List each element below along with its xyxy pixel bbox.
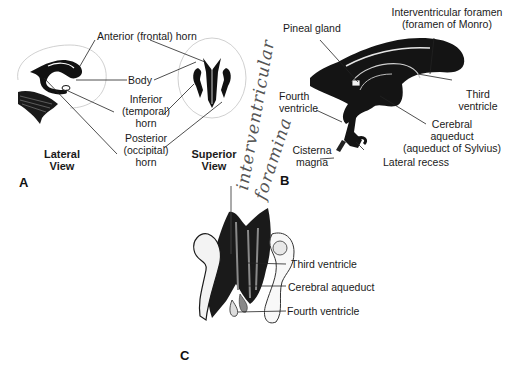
label-fourth-b-line1: Fourth bbox=[279, 90, 318, 102]
label-third-b-line2: ventricle bbox=[450, 100, 506, 112]
label-inferior-line3: horn bbox=[116, 117, 176, 129]
label-aqueduct-b-line2: aqueduct bbox=[400, 130, 504, 142]
panel-letter-a: A bbox=[19, 175, 28, 190]
label-inferior-line1: Inferior bbox=[116, 93, 176, 105]
label-superior-view: Superior View bbox=[186, 148, 242, 172]
label-fourth-ventricle-c: Fourth ventricle bbox=[287, 305, 359, 317]
label-posterior-line3: horn bbox=[116, 156, 176, 168]
label-cisterna-line1: Cisterna bbox=[288, 144, 336, 156]
label-aqueduct-b-line3: (aqueduct of Sylvius) bbox=[400, 142, 504, 154]
label-lateral-view: Lateral View bbox=[34, 148, 90, 172]
label-cerebral-aqueduct-c: Cerebral aqueduct bbox=[288, 281, 374, 293]
label-third-ventricle-b: Third ventricle bbox=[450, 88, 506, 112]
label-superior-line1: Superior bbox=[186, 148, 242, 160]
label-body: Body bbox=[128, 74, 152, 86]
label-posterior-line1: Posterior bbox=[116, 132, 176, 144]
label-superior-line2: View bbox=[186, 160, 242, 172]
label-cisterna-magna: Cisterna magna bbox=[288, 144, 336, 168]
frontal-cast-illustration bbox=[194, 208, 294, 323]
label-cisterna-line2: magna bbox=[288, 156, 336, 168]
label-cerebral-aqueduct-b: Cerebral aqueduct (aqueduct of Sylvius) bbox=[400, 118, 504, 154]
label-lateral-recess: Lateral recess bbox=[383, 156, 449, 168]
label-inferior-horn: Inferior (temporal) horn bbox=[116, 93, 176, 129]
label-iv-foramen-line1: Interventricular foramen bbox=[384, 6, 510, 18]
label-interventricular-foramen: Interventricular foramen (foramen of Mon… bbox=[384, 6, 510, 30]
label-posterior-horn: Posterior (occipital) horn bbox=[116, 132, 176, 168]
label-lateral-line1: Lateral bbox=[34, 148, 90, 160]
label-lateral-line2: View bbox=[34, 160, 90, 172]
lateral-view-illustration bbox=[18, 45, 107, 124]
panel-letter-c: C bbox=[180, 348, 189, 363]
label-posterior-line2: (occipital) bbox=[116, 144, 176, 156]
label-fourth-b-line2: ventricle bbox=[279, 102, 318, 114]
panel-letter-b: B bbox=[280, 173, 289, 188]
label-third-ventricle-c: Third ventricle bbox=[291, 258, 357, 270]
superior-view-illustration bbox=[178, 38, 246, 118]
label-anterior-horn: Anterior (frontal) horn bbox=[97, 30, 197, 42]
label-iv-foramen-line2: (foramen of Monro) bbox=[384, 18, 510, 30]
label-pineal-gland: Pineal gland bbox=[283, 22, 341, 34]
label-aqueduct-b-line1: Cerebral bbox=[400, 118, 504, 130]
label-inferior-line2: (temporal) bbox=[116, 105, 176, 117]
label-fourth-ventricle-b: Fourth ventricle bbox=[279, 90, 318, 114]
label-third-b-line1: Third bbox=[450, 88, 506, 100]
